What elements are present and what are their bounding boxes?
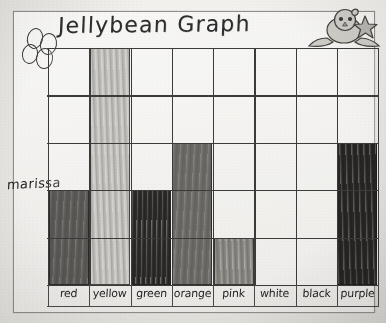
jellybean-graph-screenshot: Jellybean Graph marissa redyello	[0, 0, 386, 323]
paper-grain	[0, 0, 386, 323]
